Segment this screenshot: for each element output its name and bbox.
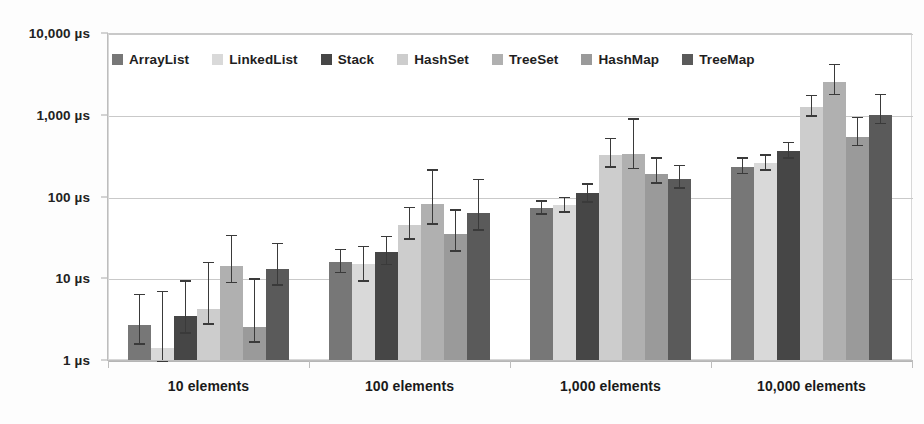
error-bar-stem	[610, 138, 612, 166]
error-bar-cap-lower	[450, 250, 461, 252]
error-bar-cap-lower	[249, 341, 260, 343]
error-bar-cap-upper	[249, 278, 260, 280]
error-bar-cap-lower	[737, 173, 748, 175]
chart-legend: ArrayListLinkedListStackHashSetTreeSetHa…	[112, 52, 755, 67]
error-bar-cap-upper	[358, 246, 369, 248]
legend-label: ArrayList	[129, 52, 189, 67]
error-bar-cap-lower	[829, 94, 840, 96]
x-tick-mark	[711, 360, 712, 368]
legend-swatch-icon	[397, 54, 408, 65]
error-bar-cap-upper	[582, 183, 593, 185]
error-bar-stem	[363, 246, 365, 280]
error-bar-stem	[834, 64, 836, 94]
error-bar-cap-upper	[203, 262, 214, 264]
legend-label: Stack	[338, 52, 375, 67]
error-bar-cap-lower	[134, 343, 145, 345]
bar-stack-2	[576, 193, 599, 360]
legend-label: HashMap	[598, 52, 659, 67]
bar-treeset-2	[622, 154, 645, 360]
error-bar-cap-upper	[134, 294, 145, 296]
error-bar-cap-upper	[674, 165, 685, 167]
error-bar-cap-lower	[427, 223, 438, 225]
legend-label: LinkedList	[229, 52, 298, 67]
bar-treeset-1	[421, 204, 444, 360]
error-bar-cap-lower	[335, 272, 346, 274]
error-bar-cap-lower	[605, 166, 616, 168]
error-bar-stem	[564, 197, 566, 212]
legend-item-stack[interactable]: Stack	[321, 52, 375, 67]
error-bar-stem	[208, 262, 210, 324]
error-bar-cap-upper	[473, 179, 484, 181]
error-bar-cap-upper	[605, 138, 616, 140]
bar-treeset-3	[823, 82, 846, 360]
x-tick-mark	[108, 360, 109, 368]
x-tick-mark	[510, 360, 511, 368]
error-bar-stem	[386, 236, 388, 264]
error-bar-stem	[340, 249, 342, 272]
error-bar-stem	[587, 183, 589, 201]
legend-item-treemap[interactable]: TreeMap	[682, 52, 754, 67]
error-bar-stem	[162, 291, 164, 360]
x-tick-mark	[912, 360, 913, 368]
error-bar-cap-upper	[272, 243, 283, 245]
error-bar-cap-lower	[674, 187, 685, 189]
error-bar-stem	[277, 243, 279, 284]
legend-item-hashset[interactable]: HashSet	[397, 52, 469, 67]
error-bar-stem	[857, 117, 859, 145]
error-bar-cap-upper	[157, 291, 168, 293]
legend-label: TreeSet	[509, 52, 558, 67]
legend-item-hashmap[interactable]: HashMap	[581, 52, 659, 67]
x-group-label-1: 100 elements	[365, 378, 454, 394]
error-bar-cap-lower	[760, 169, 771, 171]
error-bar-cap-lower	[559, 211, 570, 213]
bar-hashset-2	[599, 155, 622, 360]
legend-swatch-icon	[682, 54, 693, 65]
error-bar-stem	[765, 154, 767, 169]
error-bar-stem	[788, 142, 790, 158]
legend-swatch-icon	[492, 54, 503, 65]
error-bar-stem	[541, 200, 543, 213]
legend-item-arraylist[interactable]: ArrayList	[112, 52, 189, 67]
error-bar-cap-lower	[180, 332, 191, 334]
error-bar-cap-upper	[875, 94, 886, 96]
legend-swatch-icon	[581, 54, 592, 65]
error-bar-cap-lower	[651, 182, 662, 184]
bar-arraylist-3	[731, 167, 754, 360]
error-bar-stem	[478, 179, 480, 229]
error-bar-cap-lower	[226, 282, 237, 284]
error-bar-cap-lower	[404, 238, 415, 240]
error-bar-stem	[432, 169, 434, 223]
error-bar-cap-lower	[628, 168, 639, 170]
bar-hashset-3	[800, 107, 823, 360]
legend-item-treeset[interactable]: TreeSet	[492, 52, 558, 67]
error-bar-cap-upper	[381, 236, 392, 238]
error-bar-cap-lower	[806, 115, 817, 117]
x-group-label-3: 10,000 elements	[757, 378, 866, 394]
error-bar-cap-lower	[582, 201, 593, 203]
bar-linkedlist-2	[553, 205, 576, 360]
legend-swatch-icon	[321, 54, 332, 65]
error-bar-cap-lower	[358, 280, 369, 282]
error-bar-cap-lower	[852, 145, 863, 147]
error-bar-cap-upper	[852, 117, 863, 119]
error-bar-cap-upper	[783, 142, 794, 144]
error-bar-cap-upper	[829, 64, 840, 66]
error-bar-cap-lower	[473, 229, 484, 231]
error-bar-cap-lower	[203, 323, 214, 325]
error-bar-cap-lower	[875, 123, 886, 125]
bar-treemap-1	[467, 213, 490, 360]
error-bar-cap-lower	[783, 157, 794, 159]
error-bar-stem	[656, 157, 658, 182]
bar-hashmap-3	[846, 137, 869, 360]
bar-treemap-2	[668, 179, 691, 360]
error-bar-stem	[254, 278, 256, 341]
error-bar-cap-upper	[536, 200, 547, 202]
error-bar-cap-upper	[651, 157, 662, 159]
bar-arraylist-1	[329, 262, 352, 360]
x-tick-mark	[309, 360, 310, 368]
error-bar-cap-upper	[737, 157, 748, 159]
error-bar-cap-lower	[381, 264, 392, 266]
error-bar-stem	[185, 280, 187, 332]
legend-item-linkedlist[interactable]: LinkedList	[212, 52, 298, 67]
legend-label: HashSet	[414, 52, 469, 67]
